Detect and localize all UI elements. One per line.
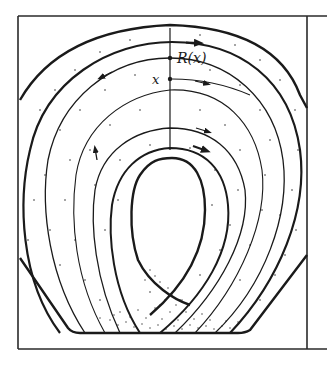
return-point-dot xyxy=(168,56,172,60)
phase-portrait-diagram: R(x) x xyxy=(0,0,327,367)
arrow-icon xyxy=(196,128,209,132)
start-point-dot xyxy=(168,77,172,81)
trajectory-loop-6 xyxy=(131,158,205,315)
arrow-icon xyxy=(186,43,200,44)
trajectory-loop-5 xyxy=(111,148,229,333)
arrow-icon xyxy=(193,146,207,151)
stipple-region xyxy=(27,34,299,329)
outer-boundary xyxy=(20,25,307,333)
start-point-label: x xyxy=(152,72,160,87)
arrow-icon xyxy=(100,72,112,78)
return-point-label: R(x) xyxy=(176,50,206,66)
frame xyxy=(18,16,327,349)
trajectory-loops xyxy=(24,42,302,333)
arrow-icon xyxy=(95,148,97,160)
